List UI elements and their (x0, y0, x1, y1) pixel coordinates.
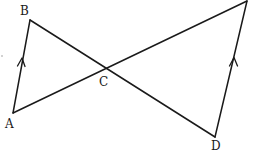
segment-ab (13, 20, 30, 113)
label-a: A (4, 117, 14, 131)
segment-ae (13, 1, 247, 113)
geometry-diagram: B A C D (0, 0, 258, 151)
label-c: C (99, 75, 108, 89)
segment-bd (30, 20, 215, 137)
label-b: B (20, 4, 29, 18)
label-d: D (211, 139, 221, 151)
parallel-arrow-de-icon (230, 58, 238, 67)
segment-de (215, 1, 247, 137)
stray-mark (1, 55, 3, 57)
